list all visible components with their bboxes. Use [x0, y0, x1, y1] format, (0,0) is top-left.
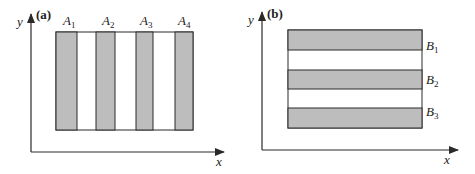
x-axis-label: x: [215, 154, 222, 169]
stripe-b1: [288, 30, 422, 50]
panel-label: (b): [267, 6, 283, 21]
panel-a: y x (a) A1 A2 A3 A4: [15, 7, 224, 169]
y-axis-label: y: [246, 12, 254, 27]
stripe-label-b1: B1: [426, 38, 438, 55]
stripe-b2: [288, 70, 422, 89]
panel-label: (a): [36, 7, 51, 22]
y-axis-label: y: [15, 14, 23, 29]
figure: y x (a) A1 A2 A3 A4 y x (b) B1 B2 B3: [0, 0, 475, 174]
stripe-label-a3: A3: [139, 13, 153, 30]
stripe-a1: [56, 32, 77, 130]
stripe-a4: [175, 32, 193, 130]
stripe-label-a2: A2: [101, 13, 114, 30]
stripe-label-a4: A4: [177, 13, 191, 30]
stripe-a2: [96, 32, 115, 130]
stripe-label-b3: B3: [426, 104, 439, 121]
panel-b: y x (b) B1 B2 B3: [246, 6, 458, 167]
x-axis-label: x: [443, 152, 450, 167]
stripe-label-b2: B2: [426, 72, 438, 89]
stripe-b3: [288, 108, 422, 128]
stripe-a3: [136, 32, 153, 130]
stripe-label-a1: A1: [62, 13, 75, 30]
